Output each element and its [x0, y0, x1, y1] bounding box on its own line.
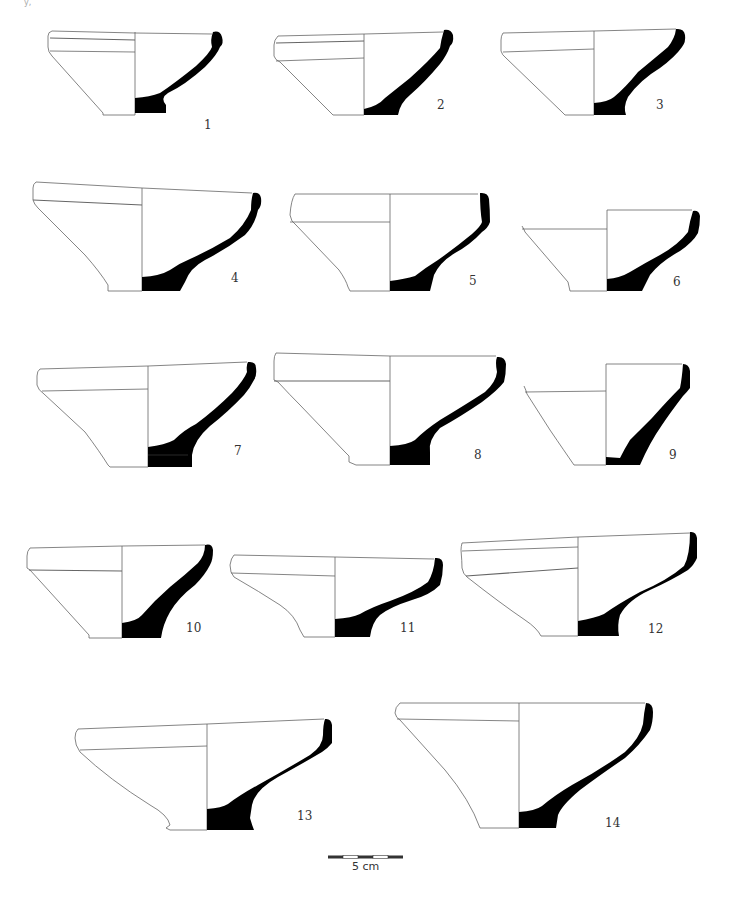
- scale-bar: [328, 856, 403, 859]
- vessel-4-drawing: [33, 182, 261, 291]
- vessel-7-drawing: [37, 362, 256, 467]
- vessel-number-4: 4: [231, 272, 239, 284]
- vessel-number-11: 11: [400, 622, 415, 634]
- vessel-number-6: 6: [673, 276, 681, 288]
- vessel-number-14: 14: [605, 817, 620, 829]
- vessel-8-drawing: [274, 353, 506, 465]
- vessel-12-drawing: [461, 532, 697, 636]
- vessel-9-drawing: [524, 364, 690, 465]
- vessel-number-9: 9: [669, 449, 677, 461]
- vessel-number-10: 10: [186, 622, 201, 634]
- vessel-5-drawing: [290, 193, 490, 291]
- vessel-number-5: 5: [469, 275, 477, 287]
- vessel-number-12: 12: [648, 623, 663, 635]
- vessel-number-7: 7: [234, 445, 242, 457]
- scale-bar-label: 5 cm: [352, 861, 379, 873]
- vessel-13-drawing: [75, 719, 332, 830]
- pottery-plate: [0, 0, 729, 907]
- vessel-number-1: 1: [204, 119, 212, 131]
- vessel-number-3: 3: [656, 99, 664, 111]
- vessel-14-drawing: [395, 703, 653, 828]
- vessel-2-drawing: [274, 30, 453, 115]
- vessel-number-13: 13: [297, 810, 312, 822]
- corner-mark: y,: [24, 0, 31, 6]
- vessel-number-2: 2: [437, 99, 445, 111]
- vessel-number-8: 8: [474, 449, 482, 461]
- vessel-1-drawing: [48, 31, 223, 115]
